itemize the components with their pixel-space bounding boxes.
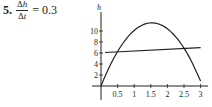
axes: h	[92, 3, 208, 100]
plot-series	[101, 23, 201, 86]
y-tick-label: 6	[94, 49, 98, 58]
height-curve	[101, 23, 201, 86]
y-tick-label: 8	[94, 38, 98, 47]
x-tick-label: 1.5	[146, 90, 156, 99]
x-tick-label: 2	[165, 90, 169, 99]
y-tick-label: 10	[90, 27, 98, 36]
y-axis-label: h	[97, 3, 101, 12]
x-tick-label: 0.5	[113, 90, 123, 99]
x-tick-label: 3	[199, 90, 203, 99]
axis-ticks: 0.511.522.53246810	[90, 27, 203, 99]
y-tick-label: 2	[94, 71, 98, 80]
height-vs-time-chart: h 0.511.522.53246810	[0, 0, 212, 107]
x-tick-label: 1	[132, 90, 136, 99]
x-tick-label: 2.5	[179, 90, 189, 99]
y-tick-label: 4	[94, 60, 98, 69]
